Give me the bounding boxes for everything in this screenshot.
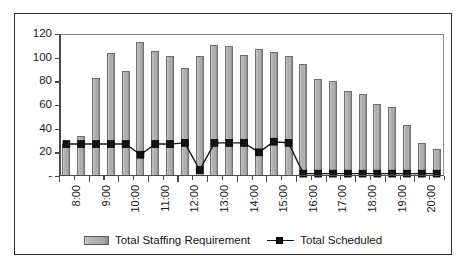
total-scheduled-marker	[152, 141, 159, 148]
total-scheduled-marker	[181, 139, 188, 146]
y-axis-tick-label: 100	[33, 52, 52, 64]
total-scheduled-marker	[167, 141, 174, 148]
x-axis-tick	[429, 176, 430, 180]
y-axis-tick-label: 80	[39, 76, 52, 88]
x-axis-tick	[355, 176, 356, 182]
x-axis-tick	[311, 176, 312, 180]
total-scheduled-marker	[78, 141, 85, 148]
x-axis-tick	[163, 176, 164, 180]
total-scheduled-marker	[285, 139, 292, 146]
legend-item-total-scheduled: Total Scheduled	[267, 234, 382, 246]
x-axis-tick-label: 9:00	[101, 185, 112, 206]
x-axis-tick-label: 15:00	[278, 185, 289, 213]
chart-legend: Total Staffing Requirement Total Schedul…	[15, 234, 451, 246]
x-axis-tick-label: 18:00	[367, 185, 378, 213]
x-axis-tick	[252, 176, 253, 180]
x-axis-tick	[177, 176, 178, 182]
y-axis-line	[59, 34, 61, 176]
x-axis-tick	[266, 176, 267, 182]
x-axis-tick	[133, 176, 134, 180]
total-scheduled-marker	[93, 141, 100, 148]
x-axis-tick	[444, 176, 445, 180]
total-scheduled-marker	[226, 139, 233, 146]
legend-bar-swatch-icon	[84, 236, 109, 245]
x-axis-tick	[118, 176, 119, 182]
x-axis-tick	[281, 176, 282, 180]
y-axis-tick-label: 40	[39, 123, 52, 135]
y-axis-tick-label: 60	[39, 99, 52, 111]
total-scheduled-marker	[137, 151, 144, 158]
total-scheduled-marker	[241, 139, 248, 146]
chart-frame: -20406080100120 8:009:0010:0011:0012:001…	[14, 13, 452, 255]
y-axis-tick-label: 120	[33, 28, 52, 40]
y-axis-tick-label: 20	[39, 147, 52, 159]
total-scheduled-marker	[107, 141, 114, 148]
x-axis-tick-label: 10:00	[130, 185, 141, 213]
x-axis-tick-label: 16:00	[308, 185, 319, 213]
x-axis-tick-label: 20:00	[426, 185, 437, 213]
x-axis-tick	[370, 176, 371, 180]
x-axis-tick	[207, 176, 208, 182]
x-axis-tick-label: 19:00	[397, 185, 408, 213]
x-axis-tick-label: 11:00	[160, 185, 171, 212]
x-axis-tick-label: 14:00	[249, 185, 260, 213]
x-axis-tick	[222, 176, 223, 180]
legend-label-total-staffing-requirement: Total Staffing Requirement	[115, 234, 250, 246]
total-scheduled-marker	[256, 149, 263, 156]
total-scheduled-marker	[270, 138, 277, 145]
x-axis-tick	[89, 176, 90, 182]
total-scheduled-marker	[211, 139, 218, 146]
x-axis-tick	[148, 176, 149, 182]
legend-item-total-staffing-requirement: Total Staffing Requirement	[84, 234, 250, 246]
x-axis-line	[59, 175, 444, 177]
x-axis-tick	[385, 176, 386, 182]
total-scheduled-marker	[196, 167, 203, 174]
legend-line-marker-icon	[267, 236, 294, 245]
x-axis-tick	[74, 176, 75, 180]
x-axis-tick-label: 12:00	[189, 185, 200, 213]
x-axis-tick	[192, 176, 193, 180]
x-axis-tick-label: 8:00	[71, 185, 82, 206]
x-axis-tick	[400, 176, 401, 180]
legend-label-total-scheduled: Total Scheduled	[300, 234, 382, 246]
x-axis-tick	[296, 176, 297, 182]
x-axis-tick	[59, 176, 60, 182]
x-axis-tick	[340, 176, 341, 180]
total-scheduled-marker	[122, 141, 129, 148]
x-axis-tick-label: 17:00	[337, 185, 348, 213]
y-axis-tick-label: -	[48, 170, 52, 182]
x-axis-tick	[414, 176, 415, 182]
x-axis-tick	[103, 176, 104, 180]
line-series-total-scheduled	[59, 34, 444, 176]
x-axis-tick	[237, 176, 238, 182]
total-scheduled-marker	[63, 141, 70, 148]
plot-area: -20406080100120 8:009:0010:0011:0012:001…	[59, 34, 444, 176]
x-axis-tick	[326, 176, 327, 182]
x-axis-tick-label: 13:00	[219, 185, 230, 213]
